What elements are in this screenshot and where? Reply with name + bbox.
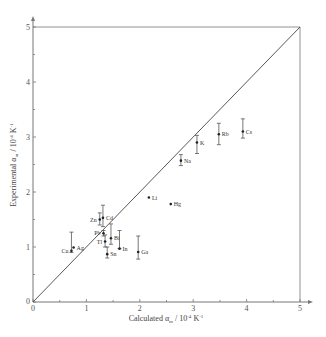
point-label: Ga — [141, 249, 148, 255]
point-label: Zn — [90, 217, 97, 223]
point-label: Na — [184, 158, 191, 164]
y-tick-label: 5 — [26, 23, 30, 32]
point-label: Rb — [222, 131, 229, 137]
data-point-pb: Pb — [94, 230, 105, 236]
point-label: Pb — [94, 230, 100, 236]
data-point-cd: Cd — [101, 205, 113, 226]
point-label: Cd — [106, 215, 113, 221]
data-point-rb: Rb — [217, 123, 229, 144]
data-point-li: Li — [148, 195, 158, 201]
y-axis-arrow-icon — [31, 16, 35, 21]
reference-line-y-equals-x — [33, 27, 300, 302]
point-label: Li — [152, 195, 158, 201]
point-label: Cu — [61, 248, 68, 254]
data-points: CuAgZnCdPbBiTlSnInGaLiHgNaKRbCs — [61, 119, 252, 259]
data-point-zn: Zn — [90, 213, 102, 225]
x-axis-arrow-icon — [308, 300, 313, 304]
point-label: Bi — [114, 235, 120, 241]
point-label: K — [200, 140, 205, 146]
scatter-chart: 012345123450 CuAgZnCdPbBiTlSnInGaLiHgNaK… — [0, 0, 326, 337]
data-point-sn: Sn — [105, 247, 116, 258]
point-label: In — [123, 246, 128, 252]
data-point-ag: Ag — [72, 245, 84, 251]
point-label: Cs — [246, 129, 253, 135]
data-point-cs: Cs — [241, 119, 253, 138]
y-tick-label: 2 — [26, 188, 30, 197]
data-point-cu: Cu — [61, 232, 73, 254]
point-label: Hg — [174, 201, 181, 207]
point-label: Sn — [110, 251, 116, 257]
axis-ticks: 012345123450 — [26, 23, 302, 313]
x-tick-label: 4 — [245, 304, 249, 313]
point-label: Ag — [77, 245, 84, 251]
x-tick-label: 0 — [31, 304, 35, 313]
x-tick-label: 2 — [138, 304, 142, 313]
point-label: Tl — [97, 239, 103, 245]
x-tick-label: 5 — [298, 304, 302, 313]
x-tick-label: 3 — [191, 304, 195, 313]
x-axis-title: Calculated αm / 10-4 K-1 — [129, 314, 204, 324]
data-point-na: Na — [179, 155, 191, 166]
data-point-ga: Ga — [136, 236, 148, 259]
y-axis-title: Experimental αm / 10-4 K-1 — [9, 123, 19, 207]
data-point-k: K — [195, 135, 205, 153]
y-tick-label: 4 — [26, 78, 30, 87]
data-point-hg: Hg — [169, 201, 181, 207]
y-tick-label: 3 — [26, 133, 30, 142]
data-point-bi: Bi — [109, 224, 120, 244]
data-point-tl: Tl — [97, 235, 107, 247]
x-tick-label: 1 — [84, 304, 88, 313]
y-tick-label: 1 — [26, 243, 30, 252]
y-tick-label: 0 — [26, 297, 30, 306]
